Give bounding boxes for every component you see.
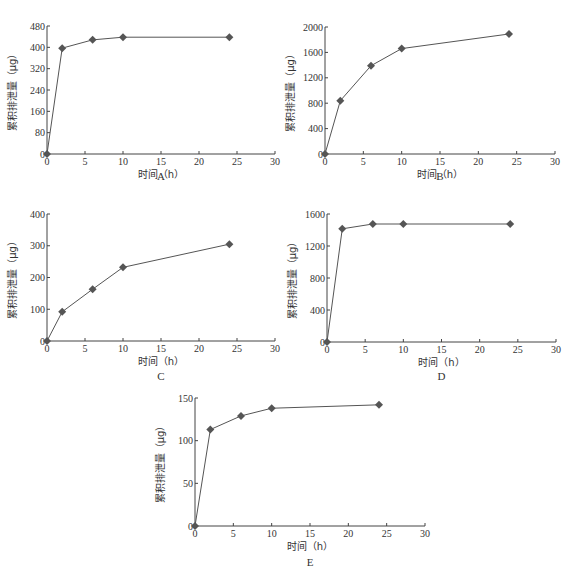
data-point-marker bbox=[399, 220, 407, 228]
y-tick-label: 1200 bbox=[303, 72, 323, 83]
data-series-line bbox=[195, 405, 379, 526]
data-point-marker bbox=[89, 285, 97, 293]
data-point-marker bbox=[237, 412, 245, 420]
x-tick-label: 15 bbox=[156, 343, 166, 354]
x-axis-title: 时间（h） bbox=[418, 356, 464, 368]
x-tick-label: 5 bbox=[231, 528, 236, 539]
x-tick-label: 20 bbox=[343, 528, 353, 539]
y-tick-label: 160 bbox=[30, 106, 45, 117]
data-point-marker bbox=[119, 33, 127, 41]
x-tick-label: 30 bbox=[550, 156, 560, 167]
x-tick-label: 15 bbox=[305, 528, 315, 539]
y-axis-title: 累积排泄量（μg） bbox=[154, 421, 166, 504]
chart-panel-c: 0100200300400051015202530时间（h）累积排泄量（μg）C bbox=[6, 209, 280, 383]
x-tick-label: 25 bbox=[232, 343, 242, 354]
chart-panel-e: 050100150051015202530时间（h）累积排泄量（μg）E bbox=[154, 393, 430, 569]
panel-label: D bbox=[438, 370, 446, 382]
data-series-line bbox=[325, 34, 509, 154]
x-tick-label: 20 bbox=[194, 343, 204, 354]
data-point-marker bbox=[505, 30, 513, 38]
data-point-marker bbox=[89, 36, 97, 44]
x-tick-label: 25 bbox=[232, 156, 242, 167]
y-tick-label: 400 bbox=[310, 305, 325, 316]
x-tick-label: 30 bbox=[420, 528, 430, 539]
data-point-marker bbox=[338, 225, 346, 233]
x-tick-label: 10 bbox=[398, 344, 408, 355]
x-tick-label: 20 bbox=[473, 156, 483, 167]
panel-label: C bbox=[157, 370, 164, 382]
x-axis-title: 时间（h） bbox=[138, 355, 184, 367]
chart-panel-a: 080160240320400480051015202530时间（h）累积排泄量… bbox=[6, 21, 280, 183]
y-tick-label: 1200 bbox=[305, 241, 325, 252]
data-series-line bbox=[327, 224, 510, 342]
panel-label: E bbox=[307, 556, 314, 568]
y-tick-label: 150 bbox=[178, 393, 193, 404]
data-point-marker bbox=[58, 308, 66, 316]
y-tick-label: 50 bbox=[183, 478, 193, 489]
x-axis-title: 时间（h） bbox=[287, 540, 333, 552]
data-point-marker bbox=[506, 220, 514, 228]
y-tick-label: 200 bbox=[30, 272, 45, 283]
x-tick-label: 20 bbox=[194, 156, 204, 167]
figure-canvas: 080160240320400480051015202530时间（h）累积排泄量… bbox=[0, 0, 571, 576]
y-tick-label: 400 bbox=[308, 123, 323, 134]
y-tick-label: 300 bbox=[30, 240, 45, 251]
x-tick-label: 15 bbox=[156, 156, 166, 167]
y-tick-label: 1600 bbox=[303, 47, 323, 58]
x-tick-label: 25 bbox=[513, 344, 523, 355]
x-tick-label: 10 bbox=[118, 343, 128, 354]
x-tick-label: 10 bbox=[397, 156, 407, 167]
x-tick-label: 15 bbox=[435, 156, 445, 167]
x-tick-label: 10 bbox=[267, 528, 277, 539]
data-series-line bbox=[47, 37, 229, 154]
chart-panel-b: 0400800120016002000051015202530时间（h）累积排泄… bbox=[284, 22, 560, 183]
y-tick-label: 100 bbox=[178, 435, 193, 446]
x-tick-label: 5 bbox=[83, 343, 88, 354]
y-tick-label: 400 bbox=[30, 209, 45, 220]
x-tick-label: 10 bbox=[118, 156, 128, 167]
x-tick-label: 30 bbox=[270, 343, 280, 354]
y-tick-label: 480 bbox=[30, 21, 45, 32]
data-point-marker bbox=[225, 33, 233, 41]
x-tick-label: 5 bbox=[363, 344, 368, 355]
y-axis-title: 累积排泄量（μg） bbox=[6, 49, 18, 132]
y-axis-title: 累积排泄量（μg） bbox=[6, 236, 18, 319]
data-point-marker bbox=[398, 45, 406, 53]
chart-panel-d: 040080012001600051015202530时间（h）累积排泄量（μg… bbox=[286, 209, 561, 383]
x-tick-label: 5 bbox=[83, 156, 88, 167]
x-tick-label: 30 bbox=[270, 156, 280, 167]
y-tick-label: 800 bbox=[310, 273, 325, 284]
x-tick-label: 5 bbox=[361, 156, 366, 167]
x-tick-label: 30 bbox=[551, 344, 561, 355]
x-tick-label: 20 bbox=[475, 344, 485, 355]
y-tick-label: 1600 bbox=[305, 209, 325, 220]
data-point-marker bbox=[225, 240, 233, 248]
y-axis-title: 累积排泄量（μg） bbox=[286, 237, 298, 320]
x-tick-label: 15 bbox=[437, 344, 447, 355]
y-tick-label: 240 bbox=[30, 85, 45, 96]
y-axis-title: 累积排泄量（μg） bbox=[284, 49, 296, 132]
y-tick-label: 2000 bbox=[303, 22, 323, 33]
data-point-marker bbox=[119, 263, 127, 271]
y-tick-label: 320 bbox=[30, 63, 45, 74]
data-point-marker bbox=[369, 220, 377, 228]
y-tick-label: 100 bbox=[30, 304, 45, 315]
y-tick-label: 800 bbox=[308, 98, 323, 109]
y-tick-label: 400 bbox=[30, 42, 45, 53]
data-point-marker bbox=[268, 404, 276, 412]
y-tick-label: 80 bbox=[35, 127, 45, 138]
data-series-line bbox=[47, 244, 229, 341]
panel-label: B bbox=[436, 170, 443, 182]
data-point-marker bbox=[58, 44, 66, 52]
x-tick-label: 25 bbox=[382, 528, 392, 539]
data-point-marker bbox=[375, 401, 383, 409]
panel-label: A bbox=[157, 170, 165, 182]
x-tick-label: 25 bbox=[512, 156, 522, 167]
data-point-marker bbox=[206, 426, 214, 434]
